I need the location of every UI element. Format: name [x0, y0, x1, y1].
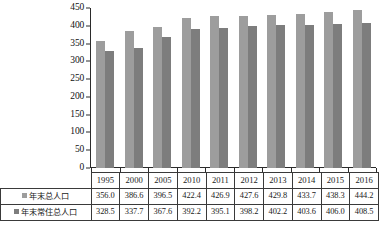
table-column-header: 2014	[292, 173, 321, 189]
bar	[276, 25, 285, 168]
table-cell: 337.7	[120, 205, 149, 221]
table-column-header: 2005	[149, 173, 178, 189]
chart-page: 050100150200250300350400450 199520002005…	[0, 0, 380, 235]
table-cell: 367.6	[149, 205, 178, 221]
bar-group	[348, 8, 377, 168]
bar-group	[234, 8, 263, 168]
bar-chart-plot: 050100150200250300350400450	[0, 0, 380, 178]
table-cell: 356.0	[91, 189, 120, 205]
bar-group	[262, 8, 291, 168]
table-header-row: 1995200020052010201120122013201420152016	[1, 173, 379, 189]
y-axis-tick-labels: 050100150200250300350400450	[56, 8, 84, 168]
series-label: 年末常住总人口	[21, 207, 77, 217]
legend-swatch-icon	[14, 209, 19, 214]
table-cell: 392.2	[177, 205, 206, 221]
bar-group	[291, 8, 320, 168]
table-cell: 328.5	[91, 205, 120, 221]
bar-series-container	[91, 8, 376, 168]
table-cell: 408.5	[350, 205, 379, 221]
table-row-header: 年末常住总人口	[1, 205, 92, 221]
table-cell: 406.0	[321, 205, 350, 221]
table-row: 年末总人口356.0386.6396.5422.4426.9427.6429.8…	[1, 189, 379, 205]
table-cell: 444.2	[350, 189, 379, 205]
table-column-header: 2011	[206, 173, 235, 189]
y-axis-tick-label: 350	[70, 39, 84, 49]
bar-group	[177, 8, 206, 168]
bar-group	[120, 8, 149, 168]
bar	[248, 26, 257, 168]
y-axis-tick-label: 450	[70, 3, 84, 13]
y-axis-tick-label: 300	[70, 57, 84, 67]
table-row: 年末常住总人口328.5337.7367.6392.2395.1398.2402…	[1, 205, 379, 221]
table-cell: 427.6	[235, 189, 264, 205]
bar	[105, 51, 114, 168]
table-cell: 395.1	[206, 205, 235, 221]
table-cell: 422.4	[177, 189, 206, 205]
table-corner-cell	[1, 173, 92, 189]
y-axis-tick-label: 150	[70, 110, 84, 120]
series-label: 年末总人口	[29, 191, 69, 201]
bar	[353, 10, 362, 168]
bar-group	[319, 8, 348, 168]
bar	[296, 14, 305, 168]
table-cell: 438.3	[321, 189, 350, 205]
bar	[134, 48, 143, 168]
bar	[210, 16, 219, 168]
bar	[324, 12, 333, 168]
bar	[362, 23, 371, 168]
y-axis-tick-label: 400	[70, 21, 84, 31]
table-cell: 396.5	[149, 189, 178, 205]
table-column-header: 1995	[91, 173, 120, 189]
table-cell: 398.2	[235, 205, 264, 221]
table-column-header: 2015	[321, 173, 350, 189]
bar-group	[148, 8, 177, 168]
table-column-header: 2012	[235, 173, 264, 189]
y-axis-tick-label: 250	[70, 74, 84, 84]
table-row-header: 年末总人口	[1, 189, 92, 205]
table-cell: 429.8	[264, 189, 293, 205]
bar	[162, 37, 171, 168]
data-table: 1995200020052010201120122013201420152016…	[0, 172, 379, 221]
bar	[219, 28, 228, 168]
table-cell: 426.9	[206, 189, 235, 205]
table-column-header: 2000	[120, 173, 149, 189]
y-axis-tick-label: 100	[70, 128, 84, 138]
bar	[333, 24, 342, 168]
bar-group	[205, 8, 234, 168]
table-cell: 403.6	[292, 205, 321, 221]
legend-swatch-icon	[22, 193, 27, 198]
y-axis-tick-label: 200	[70, 92, 84, 102]
data-table-wrapper: 1995200020052010201120122013201420152016…	[0, 172, 380, 221]
table-cell: 402.2	[264, 205, 293, 221]
bar	[153, 27, 162, 168]
bar	[305, 25, 314, 169]
y-axis-tick-label: 50	[75, 145, 84, 155]
table-column-header: 2013	[264, 173, 293, 189]
bar	[96, 41, 105, 168]
bar	[267, 15, 276, 168]
data-table-body: 1995200020052010201120122013201420152016…	[1, 173, 379, 221]
bar	[239, 16, 248, 168]
bar	[182, 18, 191, 168]
bar-group	[91, 8, 120, 168]
table-cell: 433.7	[292, 189, 321, 205]
table-column-header: 2016	[350, 173, 379, 189]
table-column-header: 2010	[177, 173, 206, 189]
bar	[191, 29, 200, 168]
bar	[125, 31, 134, 168]
table-cell: 386.6	[120, 189, 149, 205]
